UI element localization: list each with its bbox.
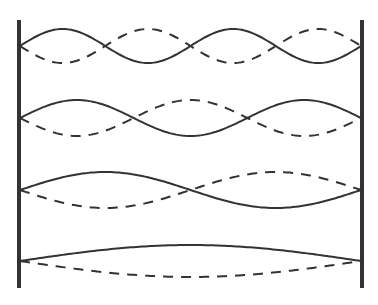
wave-modes bbox=[20, 29, 361, 277]
mode-2 bbox=[20, 172, 361, 208]
mode-1 bbox=[20, 245, 361, 277]
wave-dashed-curve bbox=[20, 29, 361, 63]
wave-solid-curve bbox=[20, 172, 361, 208]
mode-3 bbox=[20, 100, 361, 136]
wave-solid-curve bbox=[20, 245, 361, 261]
wave-solid-curve bbox=[20, 100, 361, 136]
standing-waves-diagram bbox=[0, 0, 378, 305]
mode-4 bbox=[20, 29, 361, 63]
wave-dashed-curve bbox=[20, 100, 361, 136]
wave-dashed-curve bbox=[20, 261, 361, 277]
